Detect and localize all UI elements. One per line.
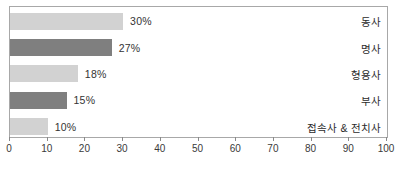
x-tick-mark <box>84 137 85 141</box>
bar-0 <box>10 13 123 30</box>
x-tick-label: 30 <box>117 143 128 154</box>
bar-value-4: 10% <box>55 121 77 133</box>
bar-row: 27% 명사 <box>10 34 387 60</box>
x-tick-mark <box>386 137 387 141</box>
bar-value-0: 30% <box>130 15 152 27</box>
bar-4 <box>10 118 48 135</box>
plot-inner: 30% 동사 27% 명사 18% 형용사 15% 부사 10% <box>10 7 387 137</box>
x-tick-label: 80 <box>305 143 316 154</box>
x-tick-mark <box>160 137 161 141</box>
x-tick-mark <box>47 137 48 141</box>
bar-value-2: 18% <box>85 68 107 80</box>
bar-2 <box>10 65 78 82</box>
bar-chart: 30% 동사 27% 명사 18% 형용사 15% 부사 10% <box>0 0 398 171</box>
x-tick-mark <box>9 137 10 141</box>
plot-area: 30% 동사 27% 명사 18% 형용사 15% 부사 10% <box>9 6 388 138</box>
x-tick-label: 10 <box>41 143 52 154</box>
category-label-1: 명사 <box>361 40 381 55</box>
x-tick-label: 40 <box>154 143 165 154</box>
bar-value-1: 27% <box>119 42 141 54</box>
x-tick-mark <box>122 137 123 141</box>
bar-row: 18% 형용사 <box>10 61 387 87</box>
x-tick-label: 100 <box>378 143 395 154</box>
x-tick-mark <box>235 137 236 141</box>
category-label-3: 부사 <box>361 93 381 108</box>
x-tick-label: 90 <box>343 143 354 154</box>
bar-3 <box>10 92 67 109</box>
x-tick-label: 60 <box>230 143 241 154</box>
category-label-4: 접속사 & 전치사 <box>307 119 381 134</box>
x-axis: 0102030405060708090100 <box>9 137 388 171</box>
x-tick-mark <box>348 137 349 141</box>
bar-1 <box>10 39 112 56</box>
x-tick-label: 50 <box>192 143 203 154</box>
x-tick-mark <box>273 137 274 141</box>
category-label-0: 동사 <box>361 14 381 29</box>
x-tick-label: 0 <box>6 143 12 154</box>
x-tick-label: 20 <box>79 143 90 154</box>
bar-row: 15% 부사 <box>10 87 387 113</box>
x-tick-mark <box>198 137 199 141</box>
category-label-2: 형용사 <box>351 66 381 81</box>
x-tick-mark <box>311 137 312 141</box>
x-tick-label: 70 <box>267 143 278 154</box>
bar-row: 30% 동사 <box>10 8 387 34</box>
bar-value-3: 15% <box>74 94 96 106</box>
